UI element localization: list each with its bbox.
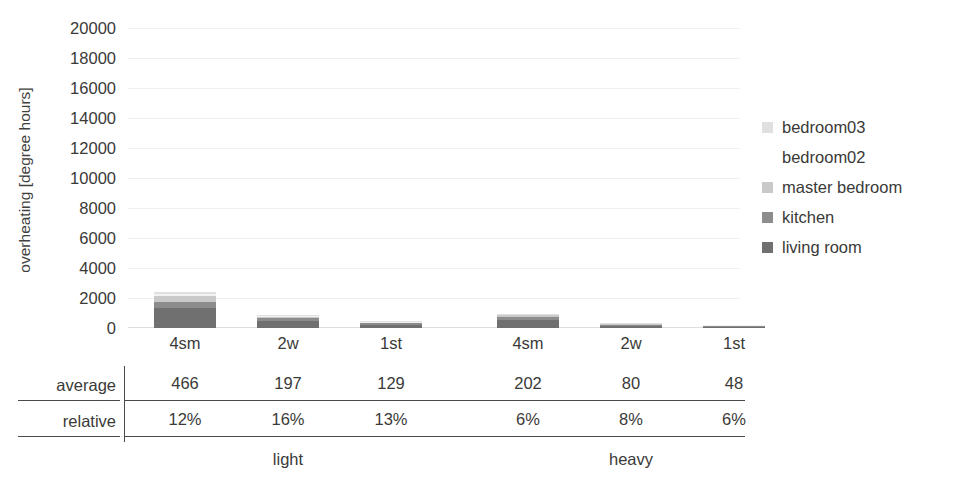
- legend-label: master bedroom: [782, 178, 902, 197]
- data-table: average4661971292028048relative12%16%13%…: [0, 368, 956, 440]
- table-cell: 466: [171, 374, 199, 393]
- table-row-header: relative: [2, 404, 124, 438]
- bar-segment-living-room: [497, 320, 559, 328]
- table-cell: 80: [622, 374, 640, 393]
- table-cell: 6%: [722, 410, 746, 429]
- bar-segment-living-room: [257, 321, 319, 328]
- table-row-rule: [124, 400, 745, 401]
- bars-layer: [128, 28, 740, 328]
- bar-segment-living-room: [360, 325, 422, 328]
- bar-1st-light[interactable]: [360, 321, 422, 328]
- table-cell: 13%: [374, 410, 407, 429]
- table-row-header: average: [2, 368, 124, 402]
- y-axis-tick-labels: 2000018000160001400012000100008000600040…: [40, 28, 122, 328]
- y-tick-label: 4000: [79, 259, 116, 278]
- bar-segment-living-room: [703, 327, 765, 328]
- legend-item-bedroom02[interactable]: bedroom02: [762, 142, 956, 172]
- bar-2w-light[interactable]: [257, 315, 319, 328]
- y-tick-label: 18000: [70, 49, 116, 68]
- bar-2w-heavy[interactable]: [600, 323, 662, 328]
- y-tick-label: 10000: [70, 169, 116, 188]
- table-row-rule: [124, 436, 745, 437]
- plot-area: [128, 28, 740, 328]
- chart-legend: bedroom03bedroom02master bedroomkitchenl…: [762, 112, 956, 262]
- legend-swatch-icon: [762, 122, 773, 133]
- table-cell: 16%: [271, 410, 304, 429]
- table-cell: 12%: [168, 410, 201, 429]
- chart-page: overheating [degree hours] 2000018000160…: [0, 0, 956, 504]
- y-axis-title: overheating [degree hours]: [13, 40, 37, 320]
- bar-segment-living-room: [154, 308, 216, 328]
- y-axis-title-text: overheating [degree hours]: [16, 87, 34, 272]
- legend-label: living room: [782, 238, 862, 257]
- legend-item-kitchen[interactable]: kitchen: [762, 202, 956, 232]
- x-category-label: 1st: [723, 334, 745, 353]
- y-tick-label: 20000: [70, 19, 116, 38]
- bar-4sm-light[interactable]: [154, 292, 216, 328]
- y-tick-label: 12000: [70, 139, 116, 158]
- x-category-label: 2w: [277, 334, 298, 353]
- bar-4sm-heavy[interactable]: [497, 314, 559, 328]
- legend-label: kitchen: [782, 208, 834, 227]
- x-category-label: 4sm: [169, 334, 200, 353]
- y-tick-label: 8000: [79, 199, 116, 218]
- y-tick-label: 6000: [79, 229, 116, 248]
- group-labels: lightheavy: [0, 450, 956, 480]
- table-cell: 129: [377, 374, 405, 393]
- x-axis-category-labels: 4sm2w1st4sm2w1st: [128, 334, 740, 360]
- legend-item-living-room[interactable]: living room: [762, 232, 956, 262]
- x-category-label: 2w: [620, 334, 641, 353]
- legend-swatch-icon: [762, 242, 773, 253]
- legend-item-bedroom03[interactable]: bedroom03: [762, 112, 956, 142]
- x-category-label: 4sm: [512, 334, 543, 353]
- y-tick-label: 14000: [70, 109, 116, 128]
- legend-label: bedroom03: [782, 118, 865, 137]
- table-cell: 6%: [516, 410, 540, 429]
- clipped-title-remnant: [0, 0, 956, 3]
- table-cell: 202: [514, 374, 542, 393]
- table-cell: 197: [274, 374, 302, 393]
- bar-1st-heavy[interactable]: [703, 325, 765, 328]
- legend-swatch-icon: [762, 182, 773, 193]
- table-row: average4661971292028048: [0, 368, 956, 404]
- table-header-underline: [18, 400, 120, 401]
- x-category-label: 1st: [380, 334, 402, 353]
- group-label-heavy: heavy: [609, 450, 653, 469]
- table-vertical-divider: [124, 366, 125, 442]
- table-cell: 8%: [619, 410, 643, 429]
- table-cell: 48: [725, 374, 743, 393]
- legend-item-master-bedroom[interactable]: master bedroom: [762, 172, 956, 202]
- y-tick-label: 0: [107, 319, 116, 338]
- table-row: relative12%16%13%6%8%6%: [0, 404, 956, 440]
- bar-segment-living-room: [600, 326, 662, 328]
- y-tick-label: 16000: [70, 79, 116, 98]
- plot-wrap: 2000018000160001400012000100008000600040…: [40, 28, 740, 328]
- y-tick-label: 2000: [79, 289, 116, 308]
- legend-swatch-icon: [762, 152, 773, 163]
- group-label-light: light: [273, 450, 303, 469]
- legend-label: bedroom02: [782, 148, 865, 167]
- table-header-underline: [18, 436, 120, 437]
- legend-swatch-icon: [762, 212, 773, 223]
